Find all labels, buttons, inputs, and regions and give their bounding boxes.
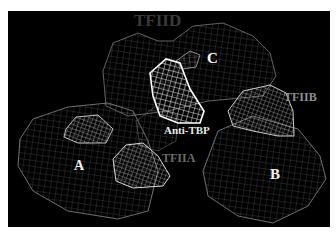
label-tfiia: TFIIA (162, 152, 195, 164)
label-tfiib: TFIIB (284, 91, 317, 103)
density-map-figure: TFIID C TFIIB Anti-TBP TFIIA A B (8, 11, 330, 227)
label-anti-tbp: Anti-TBP (164, 125, 210, 136)
label-b: B (270, 167, 280, 182)
label-a: A (74, 159, 84, 173)
wireframe-density-map (8, 11, 330, 227)
tfiia-density (113, 143, 170, 188)
label-c: C (207, 51, 218, 66)
label-tfiid: TFIID (134, 12, 181, 29)
